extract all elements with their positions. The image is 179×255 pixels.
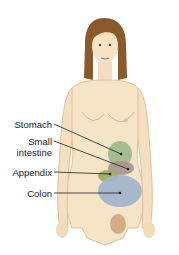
torso — [65, 80, 145, 245]
anatomy-figure: Stomach Small intestine Appendix Colon — [0, 0, 179, 255]
label-appendix: Appendix — [4, 167, 52, 178]
label-colon: Colon — [4, 188, 52, 199]
colon-organ — [98, 175, 142, 207]
label-small-intestine: Small intestine — [4, 136, 52, 158]
label-small-intestine-line2: intestine — [4, 147, 52, 158]
label-small-intestine-line1: Small — [4, 136, 52, 147]
label-stomach: Stomach — [4, 119, 52, 130]
